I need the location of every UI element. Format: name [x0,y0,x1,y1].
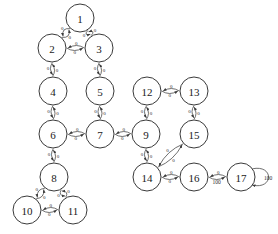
node-16[interactable]: 16 [180,163,208,191]
node-15[interactable]: 15 [180,120,208,148]
node-14[interactable]: 14 [133,163,161,191]
edge-label-13-12: 0 [170,84,173,89]
edge-label-5-7: 0 [94,109,97,114]
edge-label-2-4: 0 [47,66,50,71]
node-label-9: 9 [143,129,149,141]
edge-label-9-12: 0 [150,111,153,116]
edge-label-11-10: 0 [50,203,53,208]
edge-label-8-6: 0 [57,154,60,159]
edge-label-17-16: 0 [217,170,220,175]
node-label-16: 16 [189,172,201,184]
node-2[interactable]: 2 [38,34,66,62]
node-8[interactable]: 8 [40,163,68,191]
node-label-7: 7 [97,129,103,141]
node-label-13: 13 [189,86,201,98]
edge-label-7-6: 0 [76,127,79,132]
node-1[interactable]: 1 [66,4,94,32]
edge-11-to-8 [62,191,67,197]
node-12[interactable]: 12 [133,77,161,105]
edge-label-3-5: 0 [94,66,97,71]
node-label-15: 15 [189,129,201,141]
edge-label-3-2: 0 [75,41,78,46]
node-4[interactable]: 4 [39,77,67,105]
node-label-17: 17 [236,172,248,184]
node-6[interactable]: 6 [39,120,67,148]
edge-8-to-11 [60,190,65,196]
edge-15-to-14 [159,144,183,166]
edge-label-13-15: 0 [188,109,191,114]
edge-label-9-7: 0 [123,127,126,132]
self-loop-label-17: 100 [264,175,273,181]
edge-label-10-11: 0 [48,212,51,217]
node-label-6: 6 [50,129,56,141]
node-label-11: 11 [68,205,79,217]
edge-label-2-1: 0 [69,35,72,40]
node-9[interactable]: 9 [132,120,160,148]
edge-label-16-14: 0 [170,170,173,175]
edge-16-to-14 [163,175,179,178]
edge-label-14-15: 0 [172,158,175,163]
edge-label-7-9: 0 [121,136,124,141]
node-label-5: 5 [97,86,103,98]
edge-label-2-3: 0 [73,50,76,55]
node-label-8: 8 [51,172,57,184]
edge-label-7-5: 0 [103,111,106,116]
edge-label-8-11: 0 [57,193,60,198]
graph-diagram: 100 1234567891011121314151617 0000000000… [0,0,278,234]
edge-label-6-7: 0 [74,136,77,141]
edge-3-to-1 [89,31,93,35]
node-10[interactable]: 10 [13,196,41,224]
node-label-1: 1 [77,13,83,25]
edge-label-14-9: 0 [150,154,153,159]
edge-label-16-17: 100 [213,179,222,185]
edge-14-to-15 [158,145,182,167]
node-13[interactable]: 13 [180,77,208,105]
node-5[interactable]: 5 [86,77,114,105]
edge-1-to-3 [86,30,90,34]
node-label-14: 14 [142,172,154,184]
node-17[interactable]: 17 [227,163,255,191]
edge-label-12-13: 0 [168,93,171,98]
edge-17-to-16 [210,175,226,178]
edge-label-15-13: 0 [197,111,200,116]
graph-canvas: 100 1234567891011121314151617 0000000000… [0,0,278,234]
node-label-4: 4 [50,86,56,98]
edge-label-10-8: 0 [43,195,46,200]
node-label-12: 12 [142,86,153,98]
edge-label-1-3: 0 [83,33,86,38]
node-label-10: 10 [22,205,34,217]
edge-13-to-12 [163,89,179,92]
edge-label-6-4: 0 [56,111,59,116]
edge-11-to-10 [43,208,58,211]
edge-label-3-1: 0 [94,28,97,33]
node-label-2: 2 [49,43,55,55]
edge-label-11-8: 0 [67,189,70,194]
edge-label-6-8: 0 [48,152,51,157]
node-label-3: 3 [96,43,102,55]
edge-9-to-7 [116,132,131,135]
node-7[interactable]: 7 [86,120,114,148]
edge-label-12-9: 0 [141,109,144,114]
edge-label-4-6: 0 [47,109,50,114]
edge-label-4-2: 0 [56,68,59,73]
node-3[interactable]: 3 [85,34,113,62]
node-11[interactable]: 11 [59,196,87,224]
edge-3-to-2 [68,46,84,49]
edge-label-9-14: 0 [141,152,144,157]
edge-label-5-3: 0 [103,68,106,73]
edge-7-to-6 [69,132,85,135]
edge-label-14-16: 0 [168,179,171,184]
